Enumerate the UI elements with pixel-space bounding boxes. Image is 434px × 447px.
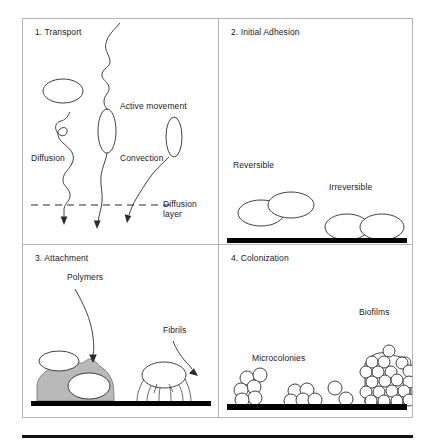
panel-colonization: 4. Colonization xyxy=(218,244,413,418)
attached-cell xyxy=(39,351,79,371)
microcolony-cell xyxy=(339,392,353,406)
biofilm-cell xyxy=(383,345,395,357)
microcolony-cell xyxy=(328,381,342,395)
fibril-strand xyxy=(147,386,151,401)
label-biofilms: Biofilms xyxy=(359,307,390,317)
cell-ellipse xyxy=(43,79,83,103)
biofilm-cell xyxy=(403,365,413,377)
fibril-strand xyxy=(159,388,160,401)
reversible-cell xyxy=(268,192,314,218)
panel-initial-adhesion: 2. Initial Adhesion Reversible Irreversi… xyxy=(218,18,413,244)
initial-adhesion-illustration xyxy=(219,19,413,244)
active-movement-path-upper xyxy=(102,23,120,110)
attachment-illustration xyxy=(23,245,218,418)
fibrils-arrowhead xyxy=(189,368,198,376)
colonization-illustration xyxy=(219,245,413,418)
microcolony-cell xyxy=(248,391,262,405)
panel-transport: 1. Transport Diffusion Active movement xyxy=(22,18,218,244)
panel-attachment: 3. Attachment Polym xyxy=(22,244,218,418)
substratum-surface xyxy=(227,404,407,410)
irreversible-cell xyxy=(360,214,404,240)
label-diffusion-layer: Diffusion layer xyxy=(163,199,197,219)
fibril-cell xyxy=(142,362,186,388)
biofilm-formation-figure: 1. Transport Diffusion Active movement xyxy=(22,18,413,418)
active-movement-path-lower xyxy=(98,153,107,222)
cell-ellipse xyxy=(166,117,182,157)
diffusion-arrowhead xyxy=(61,217,68,226)
label-convection: Convection xyxy=(120,153,164,163)
polymers-arrow xyxy=(75,289,94,355)
label-diffusion: Diffusion xyxy=(31,153,65,163)
label-microcolonies: Microcolonies xyxy=(252,353,305,363)
fibril-strand xyxy=(179,385,183,401)
fibril-strand xyxy=(170,388,171,401)
label-fibrils: Fibrils xyxy=(163,325,186,335)
attached-cell xyxy=(68,373,110,399)
fibril-strand xyxy=(137,379,144,401)
substratum-surface xyxy=(227,238,407,243)
fibril-strand xyxy=(185,379,191,401)
figure-bottom-rule xyxy=(22,435,413,438)
label-polymers: Polymers xyxy=(67,272,103,282)
label-active-movement: Active movement xyxy=(120,101,187,111)
cell-ellipse xyxy=(98,109,116,153)
convection-arrowhead xyxy=(125,214,132,223)
biofilm-cell xyxy=(391,374,403,386)
substratum-surface xyxy=(31,401,211,406)
active-movement-arrowhead xyxy=(94,220,101,229)
label-irreversible: Irreversible xyxy=(329,182,372,192)
label-reversible: Reversible xyxy=(233,160,274,170)
